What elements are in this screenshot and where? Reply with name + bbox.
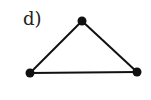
edge-top-left bbox=[30, 21, 82, 73]
node-right bbox=[133, 68, 142, 77]
edge-top-right bbox=[82, 21, 137, 72]
node-left bbox=[26, 69, 35, 78]
node-top bbox=[78, 17, 87, 26]
edge-left-right bbox=[30, 72, 137, 73]
triangle-graph bbox=[0, 0, 151, 100]
